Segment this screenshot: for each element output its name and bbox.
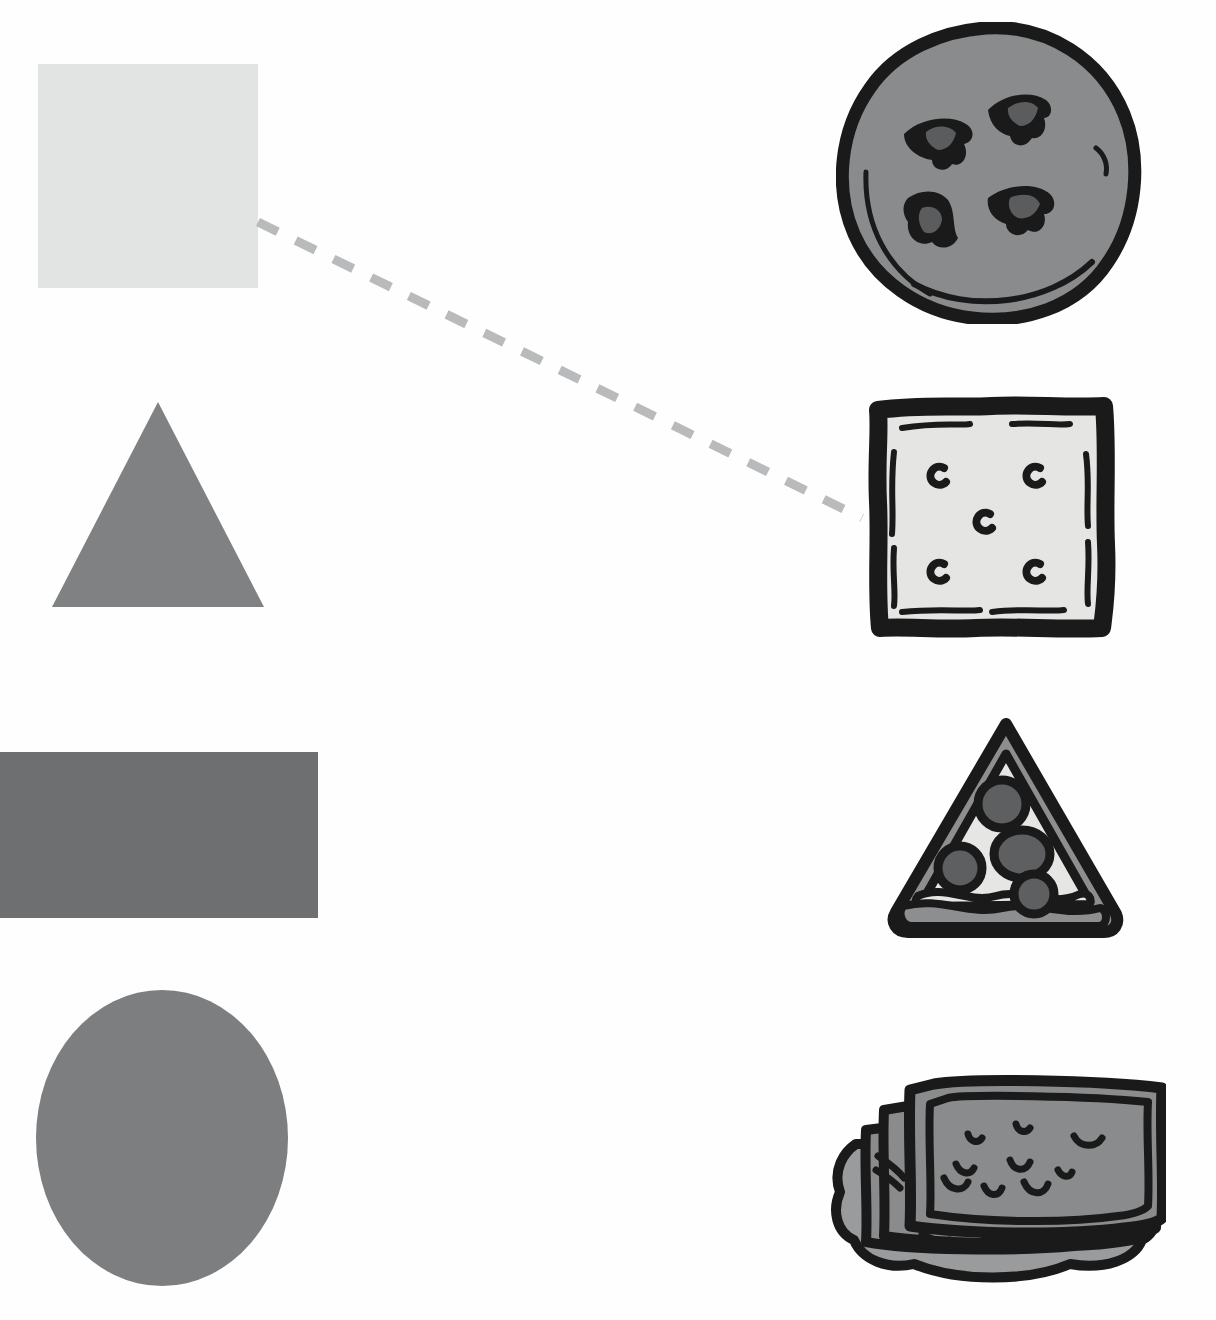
object-cracker[interactable]: [864, 392, 1118, 640]
shape-triangle[interactable]: [52, 402, 264, 607]
circle-icon: [36, 990, 288, 1286]
object-pizza-slice[interactable]: [884, 718, 1128, 940]
connector-square-to-cracker[interactable]: [258, 222, 862, 518]
shape-rectangle[interactable]: [0, 752, 318, 918]
ice-cream-sandwich-icon: [818, 1074, 1166, 1290]
square-icon: [38, 64, 258, 288]
rectangle-icon: [0, 752, 318, 918]
triangle-icon: [52, 402, 264, 607]
matching-worksheet: [0, 0, 1216, 1320]
pizza-slice-icon: [884, 718, 1128, 940]
chocolate-chip-cookie-icon: [836, 22, 1142, 324]
object-cookie[interactable]: [836, 22, 1142, 324]
square-cracker-icon: [864, 392, 1118, 640]
shape-circle[interactable]: [36, 990, 288, 1286]
shape-square[interactable]: [38, 64, 258, 288]
object-ice-cream-sandwich[interactable]: [818, 1074, 1166, 1290]
